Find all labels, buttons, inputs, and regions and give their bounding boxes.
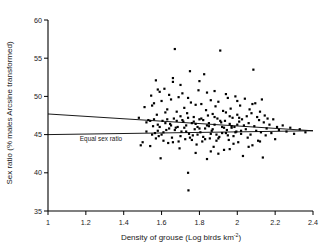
data-point [157,88,159,90]
data-point [219,49,221,51]
data-point [246,115,248,117]
data-point [193,121,195,123]
data-point [195,152,197,154]
data-point [158,135,160,137]
data-point [202,119,204,121]
data-point [177,126,179,128]
plot-background [0,0,331,249]
data-point [263,121,265,123]
data-point [151,104,153,106]
data-point [192,134,194,136]
data-point [143,106,145,108]
data-point [201,140,203,142]
data-point [142,141,144,143]
data-point [272,118,274,120]
data-point [196,134,198,136]
data-point [147,119,149,121]
data-point [190,101,192,103]
data-point [157,124,159,126]
data-point [145,130,147,132]
data-point [196,126,198,128]
data-point [188,133,190,135]
data-point [152,125,154,127]
data-point [198,127,200,129]
data-point [174,48,176,50]
data-point [215,140,217,142]
data-point [243,124,245,126]
data-point [217,153,219,155]
data-point [223,127,225,129]
data-point [145,121,147,123]
data-point [164,111,166,113]
data-point [234,95,236,97]
data-point [210,133,212,135]
data-point [160,134,162,136]
data-point [166,108,168,110]
data-point [293,133,295,135]
data-point [178,147,180,149]
data-point [266,127,268,129]
data-point [149,120,151,122]
plot-annotations: Equal sex ratio [80,135,123,143]
data-point [229,115,231,117]
data-point [200,103,202,105]
data-point [150,95,152,97]
data-point [210,150,212,152]
data-point [257,140,259,142]
data-point [250,112,252,114]
data-point [258,119,260,121]
data-point [198,80,200,82]
data-point [153,102,155,104]
data-point [214,105,216,107]
data-point [163,88,165,90]
scatter-plot-figure: 11.21.41.61.822.22.4 354045505560 Equal … [0,0,331,249]
data-point [225,111,227,113]
data-point [185,124,187,126]
data-point [167,142,169,144]
data-point [238,121,240,123]
data-point [186,112,188,114]
data-point [159,91,161,93]
data-point [206,124,208,126]
data-point [170,98,172,100]
data-point [256,116,258,118]
data-point [171,137,173,139]
data-point [232,135,234,137]
data-point [240,130,242,132]
data-point [170,124,172,126]
data-point [222,110,224,112]
data-point [248,146,250,148]
data-point [245,128,247,130]
data-point [200,117,202,119]
data-point [213,124,215,126]
equal-sex-ratio-label: Equal sex ratio [80,135,123,143]
data-point [140,144,142,146]
data-point [259,111,261,113]
x-tick-label: 1.8 [194,218,204,227]
data-point [202,136,204,138]
data-point [187,97,189,99]
data-point [254,102,256,104]
data-point [178,140,180,142]
data-point [209,137,211,139]
data-point [168,127,170,129]
data-point [226,129,228,131]
data-point [149,145,151,147]
data-point [138,117,140,119]
data-point [248,122,250,124]
data-point [244,98,246,100]
data-point [172,81,174,83]
y-axis-title: Sex ratio (% males Arcsine transformed) [5,41,14,184]
data-point [266,117,268,119]
data-point [223,149,225,151]
data-point [276,126,278,128]
y-tick-label: 45 [34,130,42,139]
data-point [203,73,205,75]
data-point [285,130,287,132]
data-point [282,124,284,126]
data-point [191,139,193,141]
data-point [213,116,215,118]
data-point [227,97,229,99]
data-point [221,132,223,134]
y-tick-label: 50 [34,92,42,101]
